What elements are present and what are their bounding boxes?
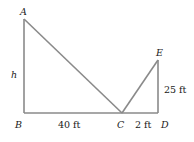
segment-AC <box>24 19 122 113</box>
diagram-lines <box>24 19 158 113</box>
point-label-e: E <box>155 47 163 58</box>
point-label-b: B <box>14 119 22 130</box>
length-label-bc: 40 ft <box>58 119 81 130</box>
length-label-de: 25 ft <box>164 84 187 95</box>
height-label-h: h <box>11 69 17 80</box>
point-label-a: A <box>19 6 27 17</box>
point-label-d: D <box>160 119 169 130</box>
point-label-c: C <box>117 119 125 130</box>
similar-triangles-diagram: A E h 25 ft B 40 ft C 2 ft D <box>0 0 194 142</box>
segment-CE <box>122 60 158 113</box>
length-label-cd: 2 ft <box>135 119 152 130</box>
